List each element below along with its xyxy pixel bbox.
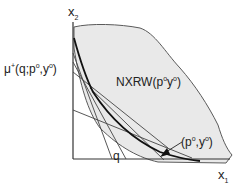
nxrw-diagram xyxy=(0,0,245,191)
mu-open: (q;p xyxy=(15,62,36,76)
mu-plus-label: μ+(q;po,yo) xyxy=(4,62,57,75)
point-mid: ,y xyxy=(196,135,205,149)
x2-axis-label-sub: 2 xyxy=(75,14,79,21)
q-label: q xyxy=(113,150,120,162)
mu-prefix: μ xyxy=(4,62,11,76)
x2-axis-label: x2 xyxy=(68,5,78,21)
mu-close: ) xyxy=(53,62,57,76)
region-prefix: NXRW(p xyxy=(116,75,163,89)
point-close: ) xyxy=(209,135,213,149)
point-label: (po,yo) xyxy=(181,135,213,148)
x1-axis-label-sub: 1 xyxy=(225,177,229,184)
region-label: NXRW(poyo) xyxy=(116,75,181,88)
region-close: ) xyxy=(177,75,181,89)
x1-axis-label: x1 xyxy=(218,168,228,184)
point-open: (p xyxy=(181,135,192,149)
mu-mid: ,y xyxy=(40,62,49,76)
